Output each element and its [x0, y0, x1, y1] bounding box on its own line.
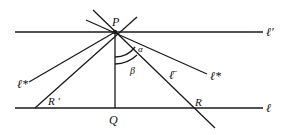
label-R-prime: R '	[47, 95, 60, 107]
label-l-star: ℓ*	[210, 69, 221, 83]
label-Q: Q	[109, 113, 118, 127]
label-P: P	[111, 15, 120, 29]
point-P	[113, 30, 117, 34]
label-R: R	[194, 96, 202, 108]
label-l-prime: ℓ'	[266, 25, 274, 39]
label-l-sub-star: ℓ*	[17, 77, 28, 91]
label-alpha: α	[138, 44, 143, 54]
geometry-diagram: P Q R R ' ℓ' ℓ ℓ* ℓ* ℓ̄ α β	[0, 0, 287, 135]
label-l: ℓ	[266, 101, 271, 115]
label-l-bar: ℓ̄	[169, 68, 177, 82]
label-beta: β	[129, 65, 135, 76]
